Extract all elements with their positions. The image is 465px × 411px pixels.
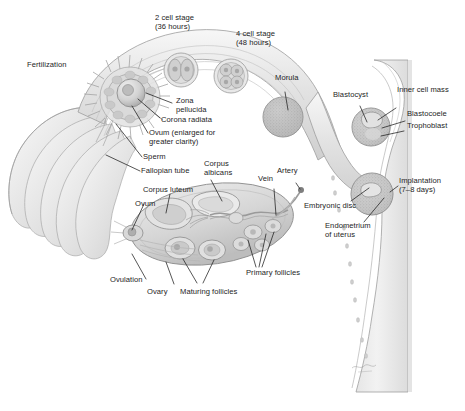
label-inner-cell-mass: Inner cell mass xyxy=(397,86,449,95)
label-blastocoele: Blastocoele xyxy=(407,110,447,119)
label-ovum: Ovum xyxy=(135,200,155,209)
label-vein: Vein xyxy=(258,175,273,184)
label-embryonic-disc: Embryonic disc xyxy=(304,202,356,211)
label-zona-pellucida: Zona pellucida xyxy=(176,97,206,115)
label-ovary: Ovary xyxy=(147,288,168,297)
label-corpus-luteum: Corpus luteum xyxy=(143,186,193,195)
label-two-cell-stage: 2 cell stage (36 hours) xyxy=(155,14,194,32)
label-blastocyst: Blastocyst xyxy=(333,91,368,100)
label-endometrium: Endometrium of uterus xyxy=(325,222,371,240)
label-morula: Morula xyxy=(275,74,299,83)
label-primary-follicles: Primary follicles xyxy=(246,269,300,278)
two-cell-embryo xyxy=(164,53,198,87)
ovary-structure xyxy=(111,173,299,275)
label-ovulation: Ovulation xyxy=(110,276,143,285)
label-corpus-albicans: Corpus albicans xyxy=(204,160,232,178)
implanting-blastocyst xyxy=(351,173,393,215)
morula-cell xyxy=(263,97,303,137)
label-fallopian-tube: Fallopian tube xyxy=(141,167,189,176)
figure-canvas: Fertilization 2 cell stage (36 hours) 4 … xyxy=(0,0,465,411)
anatomy-illustration xyxy=(0,0,465,411)
label-fertilization: Fertilization xyxy=(27,61,66,70)
label-artery: Artery xyxy=(277,167,298,176)
label-maturing-follicles: Maturing follicles xyxy=(180,288,237,297)
label-trophoblast: Trophoblast xyxy=(407,122,447,131)
label-four-cell-stage: 4 cell stage (48 hours) xyxy=(236,30,275,48)
label-corona-radiata: Corona radiata xyxy=(161,116,212,125)
label-ovum-enlarged: Ovum (enlarged for greater clarity) xyxy=(149,129,215,147)
four-cell-embryo xyxy=(214,59,248,93)
label-implantation: Implantation (7–8 days) xyxy=(399,177,441,195)
fimbriae-group xyxy=(9,107,136,259)
label-sperm: Sperm xyxy=(143,153,166,162)
